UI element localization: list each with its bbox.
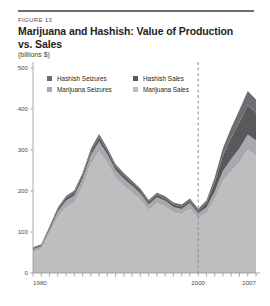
chart-legend: Hashish Seizures Hashish Sales Marijuana… [46, 73, 231, 95]
legend-item-hashish-seizures[interactable]: Hashish Seizures [46, 75, 132, 83]
legend-swatch-hashish-seizures [46, 75, 53, 82]
legend-label-marijuana-seizures: Marijuana Seizures [57, 86, 112, 94]
svg-text:300: 300 [18, 146, 29, 153]
svg-text:2007: 2007 [242, 279, 256, 286]
legend-label-hashish-seizures: Hashish Seizures [57, 75, 107, 83]
legend-swatch-marijuana-sales [132, 86, 139, 93]
figure-container: FIGURE 13 Marijuana and Hashish: Value o… [0, 0, 270, 306]
svg-text:200: 200 [18, 187, 29, 194]
legend-swatch-marijuana-seizures [46, 86, 53, 93]
chart-plot-area: 0100200300400500198020002007 [0, 0, 270, 306]
svg-text:400: 400 [18, 105, 29, 112]
area-chart-svg: 0100200300400500198020002007 [0, 0, 270, 306]
legend-item-marijuana-seizures[interactable]: Marijuana Seizures [46, 86, 132, 94]
legend-swatch-hashish-sales [132, 75, 139, 82]
legend-label-hashish-sales: Hashish Sales [143, 75, 184, 83]
svg-text:1980: 1980 [33, 279, 47, 286]
legend-item-hashish-sales[interactable]: Hashish Sales [132, 75, 231, 83]
legend-label-marijuana-sales: Marijuana Sales [143, 86, 189, 94]
svg-text:2000: 2000 [191, 279, 205, 286]
svg-text:500: 500 [18, 64, 29, 71]
svg-text:0: 0 [25, 269, 29, 276]
legend-item-marijuana-sales[interactable]: Marijuana Sales [132, 86, 231, 94]
svg-text:100: 100 [18, 228, 29, 235]
